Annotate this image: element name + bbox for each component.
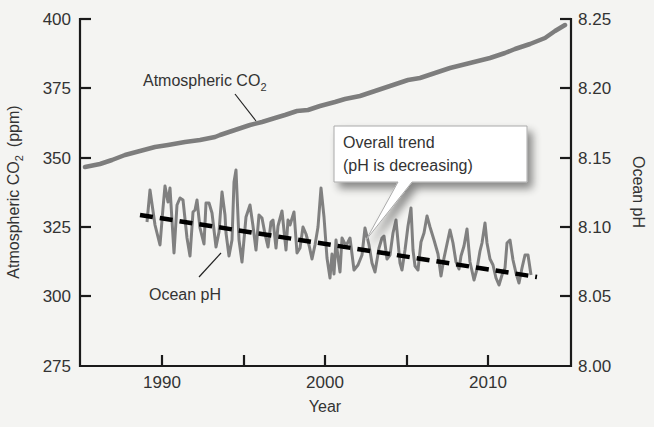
callout-line-2: (pH is decreasing) xyxy=(343,157,473,174)
y-tick-400: 400 xyxy=(43,10,71,29)
ocean-ph-series-label: Ocean pH xyxy=(149,286,221,303)
co2-label-leader xyxy=(235,94,256,121)
svg-text:Atmospheric CO2(ppm): Atmospheric CO2(ppm) xyxy=(5,105,25,278)
x-tick-1990: 1990 xyxy=(143,373,181,392)
right-y-tick-labels: 8.25 8.20 8.15 8.10 8.05 8.00 xyxy=(578,10,611,376)
left-y-tick-labels: 400 375 350 325 300 275 xyxy=(43,10,71,376)
y-right-tick-8.00: 8.00 xyxy=(578,357,611,376)
y-right-axis-title: Ocean pH xyxy=(630,156,647,228)
y-right-tick-8.05: 8.05 xyxy=(578,287,611,306)
svg-text:Ocean pH: Ocean pH xyxy=(630,156,647,228)
x-tick-labels: 1990 2000 2010 xyxy=(143,373,507,392)
y-tick-300: 300 xyxy=(43,287,71,306)
x-tick-2000: 2000 xyxy=(306,373,344,392)
axes xyxy=(79,18,572,367)
x-tick-2010: 2010 xyxy=(469,373,507,392)
co2-series-label: Atmospheric CO2 xyxy=(143,72,267,93)
y-tick-275: 275 xyxy=(43,357,71,376)
trend-callout: Overall trend (pH is decreasing) xyxy=(334,126,527,240)
y-right-tick-8.20: 8.20 xyxy=(578,79,611,98)
y-right-tick-8.25: 8.25 xyxy=(578,10,611,29)
y-right-tick-8.10: 8.10 xyxy=(578,218,611,237)
y-tick-325: 325 xyxy=(43,218,71,237)
co2-ph-chart: 400 375 350 325 300 275 8.25 8.20 8.15 8… xyxy=(0,0,654,427)
callout-line-1: Overall trend xyxy=(343,134,435,151)
y-tick-375: 375 xyxy=(43,79,71,98)
y-left-axis-title: Atmospheric CO2(ppm) xyxy=(5,105,25,278)
y-right-tick-8.15: 8.15 xyxy=(578,149,611,168)
x-axis-title: Year xyxy=(309,398,342,415)
y-tick-350: 350 xyxy=(43,149,71,168)
ph-label-leader xyxy=(199,253,221,277)
ocean-ph-line xyxy=(147,170,531,285)
